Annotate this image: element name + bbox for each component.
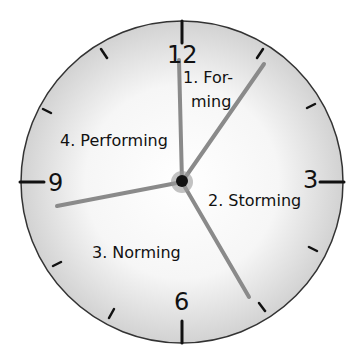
hub <box>176 175 188 187</box>
number-3: 3 <box>303 168 318 192</box>
stage-forming-line1: 1. For- <box>183 70 233 86</box>
stage-forming-line2: ming <box>191 94 231 110</box>
number-9: 9 <box>48 171 63 195</box>
stage-storming: 2. Storming <box>208 193 301 209</box>
number-6: 6 <box>174 290 189 314</box>
number-12: 12 <box>167 43 198 67</box>
stage-norming: 3. Norming <box>92 245 181 261</box>
stage-performing: 4. Performing <box>60 133 168 149</box>
